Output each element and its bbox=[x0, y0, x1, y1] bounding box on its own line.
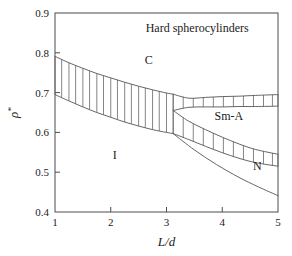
y-tick-label: 0.8 bbox=[35, 47, 49, 59]
phase-label-n: N bbox=[253, 159, 262, 173]
chart-annotations: Hard spherocylindersCISm-AN bbox=[113, 21, 262, 173]
svg-text:ρ*: ρ* bbox=[6, 107, 21, 119]
x-axis-title: L/d bbox=[157, 234, 176, 249]
x-tick-label: 2 bbox=[108, 216, 114, 228]
coexistence-bands bbox=[55, 56, 278, 166]
phase-boundary bbox=[173, 134, 278, 196]
y-tick-label: 0.4 bbox=[35, 206, 49, 218]
x-tick-label: 4 bbox=[220, 216, 226, 228]
phase-boundary bbox=[173, 94, 278, 98]
y-axis-tick-labels: 0.40.50.60.70.80.9 bbox=[35, 7, 49, 218]
y-tick-label: 0.6 bbox=[35, 126, 49, 138]
y-tick-label: 0.7 bbox=[35, 87, 49, 99]
phase-boundary bbox=[55, 56, 173, 94]
y-tick-label: 0.5 bbox=[35, 166, 49, 178]
x-tick-label: 3 bbox=[164, 216, 170, 228]
x-tick-label: 5 bbox=[275, 216, 281, 228]
phase-label-i: I bbox=[113, 148, 117, 162]
chart-title-annotation: Hard spherocylinders bbox=[146, 21, 249, 35]
phase-diagram-chart: 12345 0.40.50.60.70.80.9 L/d ρ* Hard sph… bbox=[0, 0, 292, 256]
axis-ticks bbox=[55, 53, 222, 212]
phase-diagram-figure: 12345 0.40.50.60.70.80.9 L/d ρ* Hard sph… bbox=[0, 0, 292, 256]
phase-label-sm-a: Sm-A bbox=[215, 109, 244, 123]
x-tick-label: 1 bbox=[52, 216, 58, 228]
y-tick-label: 0.9 bbox=[35, 7, 49, 19]
phase-boundary bbox=[55, 95, 173, 134]
y-axis-title: ρ* bbox=[6, 107, 21, 119]
phase-label-c: C bbox=[145, 53, 153, 67]
x-axis-tick-labels: 12345 bbox=[52, 216, 281, 228]
